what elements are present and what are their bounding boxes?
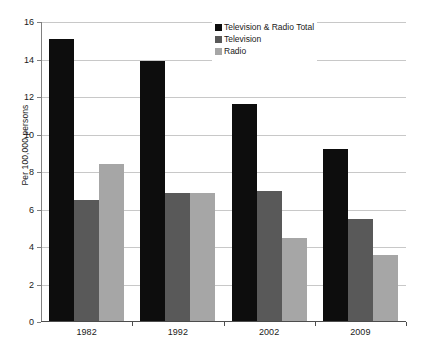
legend-label: Television & Radio Total	[224, 23, 314, 32]
x-tick-mark	[315, 322, 316, 326]
y-tick-label: 12	[24, 92, 34, 102]
x-tick-mark	[132, 322, 133, 326]
plot-area: 0246810121416	[41, 22, 406, 322]
bar	[348, 219, 373, 322]
x-axis-label: 1982	[77, 327, 97, 337]
y-axis-line	[41, 22, 42, 322]
x-tick-mark	[224, 322, 225, 326]
y-tick-label: 2	[29, 280, 34, 290]
y-tick-label: 4	[29, 242, 34, 252]
gridline	[41, 172, 406, 173]
bar	[232, 104, 257, 322]
x-axis-label: 1992	[168, 327, 188, 337]
x-axis-label: 2002	[259, 327, 279, 337]
gridline	[41, 135, 406, 136]
x-tick-mark	[406, 322, 407, 326]
legend-swatch-icon	[215, 48, 222, 55]
legend-swatch-icon	[215, 36, 222, 43]
bar	[257, 191, 282, 322]
y-tick-label: 10	[24, 130, 34, 140]
bar-chart: Per 100,000 persons 0246810121416 198219…	[0, 0, 430, 354]
bar	[99, 164, 124, 322]
bar	[282, 238, 307, 322]
y-tick-label: 8	[29, 167, 34, 177]
legend-label: Television	[224, 35, 261, 44]
legend-item: Television & Radio Total	[215, 22, 314, 33]
x-axis-label: 2009	[350, 327, 370, 337]
y-tick-label: 16	[24, 17, 34, 27]
legend-item: Television	[215, 34, 314, 45]
bar	[74, 200, 99, 322]
gridline	[41, 97, 406, 98]
legend: Television & Radio TotalTelevisionRadio	[212, 20, 317, 61]
bar	[165, 193, 190, 322]
bar	[373, 255, 398, 323]
y-axis-title: Per 100,000 persons	[20, 65, 30, 225]
bar	[49, 39, 74, 322]
legend-item: Radio	[215, 46, 314, 57]
y-tick-mark	[37, 322, 41, 323]
legend-swatch-icon	[215, 24, 222, 31]
bar	[323, 149, 348, 322]
y-tick-label: 0	[29, 317, 34, 327]
y-tick-label: 6	[29, 205, 34, 215]
y-tick-label: 14	[24, 55, 34, 65]
bar	[140, 61, 165, 322]
legend-label: Radio	[224, 47, 246, 56]
bar	[190, 193, 215, 322]
